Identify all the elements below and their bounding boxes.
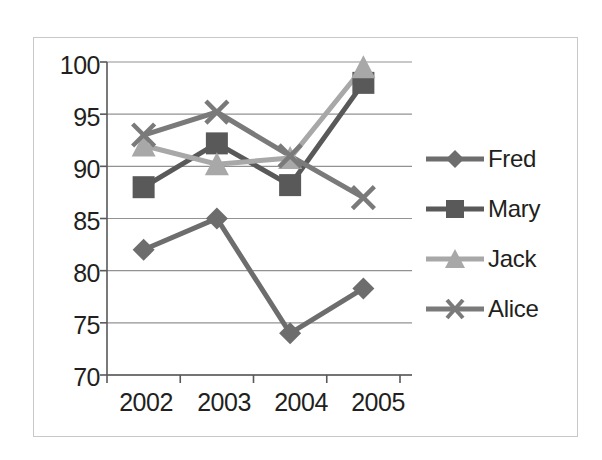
ytick-label-100: 100 (40, 51, 100, 80)
xtick-label-2003: 2003 (184, 388, 264, 417)
triangle-marker-icon (424, 244, 486, 274)
legend-item-fred[interactable]: Fred (424, 141, 536, 177)
legend-label-mary: Mary (488, 195, 540, 223)
ytick-label-95: 95 (40, 103, 100, 132)
ytick-label-85: 85 (40, 207, 100, 236)
legend-label-alice: Alice (488, 295, 539, 323)
ytick-label-80: 80 (40, 259, 100, 288)
square-marker-icon (424, 194, 486, 224)
legend-item-mary[interactable]: Mary (424, 191, 540, 227)
diamond-marker-icon (424, 144, 486, 174)
ytick-label-70: 70 (40, 363, 100, 392)
xtick-label-2002: 2002 (106, 388, 186, 417)
legend-label-fred: Fred (488, 145, 536, 173)
xtick-label-2005: 2005 (338, 388, 418, 417)
legend-item-jack[interactable]: Jack (424, 241, 536, 277)
legend-label-jack: Jack (488, 245, 536, 273)
xtick-label-2004: 2004 (261, 388, 341, 417)
x-marker-icon (424, 294, 486, 324)
ytick-label-75: 75 (40, 311, 100, 340)
legend-item-alice[interactable]: Alice (424, 291, 539, 327)
ytick-label-90: 90 (40, 155, 100, 184)
